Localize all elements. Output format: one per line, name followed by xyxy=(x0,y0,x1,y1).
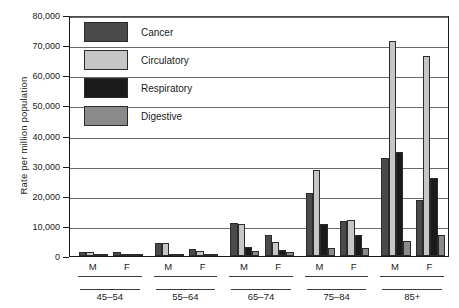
bar xyxy=(245,247,252,256)
age-group-rule xyxy=(156,289,216,290)
bar xyxy=(430,178,437,256)
bar xyxy=(101,254,108,256)
bar xyxy=(169,254,176,256)
x-axis-sex-label-m: M xyxy=(240,261,248,272)
sex-group-rule xyxy=(380,276,444,277)
x-axis-age-group-label: 85+ xyxy=(404,291,420,302)
legend-item-circulatory[interactable]: Circulatory xyxy=(84,46,264,74)
bar xyxy=(238,224,245,256)
sex-group-rule xyxy=(154,276,218,277)
bar xyxy=(128,254,135,256)
x-axis-age-group-label: 75–84 xyxy=(323,291,349,302)
x-axis-age-group-label: 65–74 xyxy=(248,291,274,302)
bar xyxy=(211,254,218,256)
bar xyxy=(286,252,293,256)
bar xyxy=(279,250,286,256)
bar xyxy=(403,241,410,256)
legend-swatch-cancer xyxy=(84,22,128,42)
x-axis-sex-label-f: F xyxy=(351,261,357,272)
y-axis-tick-label: 0 xyxy=(0,252,60,262)
legend-label: Respiratory xyxy=(141,83,192,94)
bar xyxy=(230,223,237,256)
x-axis-age-group-label: 45–54 xyxy=(97,291,123,302)
bar xyxy=(252,251,259,256)
sex-group-rule xyxy=(305,276,369,277)
age-group-rule xyxy=(80,289,140,290)
bar xyxy=(355,235,362,256)
bar xyxy=(113,252,120,256)
y-axis-tick-label: 60,000 xyxy=(0,71,60,81)
x-axis-sex-label-f: F xyxy=(275,261,281,272)
bar xyxy=(189,249,196,256)
legend-swatch-respiratory xyxy=(84,78,128,98)
legend-swatch-circulatory xyxy=(84,50,128,70)
y-axis-tick-label: 70,000 xyxy=(0,41,60,51)
bar xyxy=(196,251,203,256)
bar xyxy=(86,252,93,256)
legend-item-respiratory[interactable]: Respiratory xyxy=(84,74,264,102)
y-axis-tick-label: 50,000 xyxy=(0,101,60,111)
y-axis-tick-label: 80,000 xyxy=(0,11,60,21)
chart-legend: CancerCirculatoryRespiratoryDigestive xyxy=(84,18,264,130)
x-axis-sex-label-f: F xyxy=(200,261,206,272)
x-axis-sex-label-m: M xyxy=(89,261,97,272)
bar xyxy=(423,56,430,256)
y-axis-tick-label: 40,000 xyxy=(0,132,60,142)
sex-group-rule xyxy=(229,276,293,277)
bar xyxy=(313,170,320,256)
x-axis-sex-label-f: F xyxy=(124,261,130,272)
age-group-rule xyxy=(382,289,442,290)
bar xyxy=(177,254,184,256)
sex-group-rule xyxy=(78,276,142,277)
bar xyxy=(416,200,423,256)
x-axis: MF45–54MF55–64MF65–74MF75–84MF85+ xyxy=(69,257,449,308)
bar xyxy=(121,254,128,256)
bar xyxy=(328,248,335,256)
bar xyxy=(265,235,272,256)
mortality-rate-bar-chart: Rate per million population 010,00020,00… xyxy=(0,0,459,308)
legend-label: Digestive xyxy=(141,111,182,122)
bar xyxy=(362,248,369,256)
bar xyxy=(204,254,211,256)
bar xyxy=(155,243,162,256)
bar xyxy=(347,220,354,256)
age-group-rule xyxy=(307,289,367,290)
y-axis-tick-label: 30,000 xyxy=(0,162,60,172)
y-axis-tick-label: 20,000 xyxy=(0,192,60,202)
legend-item-cancer[interactable]: Cancer xyxy=(84,18,264,46)
bar xyxy=(438,235,445,256)
legend-item-digestive[interactable]: Digestive xyxy=(84,102,264,130)
bar xyxy=(340,221,347,256)
bar xyxy=(306,193,313,256)
legend-swatch-digestive xyxy=(84,106,128,126)
bar xyxy=(272,242,279,256)
bar xyxy=(396,152,403,256)
bar xyxy=(320,224,327,256)
bar xyxy=(389,41,396,256)
x-axis-sex-label-f: F xyxy=(426,261,432,272)
x-axis-sex-label-m: M xyxy=(164,261,172,272)
bar xyxy=(94,254,101,256)
bar xyxy=(162,243,169,256)
age-group-rule xyxy=(231,289,291,290)
bar xyxy=(135,254,142,256)
bar xyxy=(79,252,86,256)
x-axis-age-group-label: 55–64 xyxy=(172,291,198,302)
y-axis-tick-label: 10,000 xyxy=(0,222,60,232)
bar xyxy=(381,158,388,256)
x-axis-sex-label-m: M xyxy=(315,261,323,272)
legend-label: Circulatory xyxy=(141,55,189,66)
legend-label: Cancer xyxy=(141,27,173,38)
x-axis-sex-label-m: M xyxy=(391,261,399,272)
